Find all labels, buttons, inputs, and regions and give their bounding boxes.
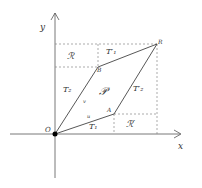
- edge-v-label: v: [83, 98, 86, 104]
- region-T1-label: T₁: [89, 122, 98, 131]
- region-R-label: ℛ: [67, 51, 75, 61]
- origin-point: [53, 132, 58, 137]
- point-B-label: B: [96, 66, 102, 73]
- region-T2-prime-label: T′₂: [133, 84, 143, 93]
- y-axis-label: y: [39, 22, 46, 32]
- region-T1-prime-label: T′₁: [106, 47, 116, 56]
- point-A-label: A: [106, 106, 112, 113]
- point-R-label: R: [157, 38, 163, 45]
- point-O-label: O: [45, 126, 51, 134]
- x-axis-label: x: [178, 141, 183, 151]
- region-R-prime-label: ℛ′: [126, 119, 135, 129]
- region-P-label: 𝒫: [99, 85, 110, 98]
- edge-u-label: u: [87, 113, 90, 119]
- region-T2-label: T₂: [63, 85, 72, 94]
- parallelogram-diagram: x y O A B R ℛ T′₁ T₂ 𝒫 T′₂ T₁ ℛ′ v u: [0, 0, 202, 188]
